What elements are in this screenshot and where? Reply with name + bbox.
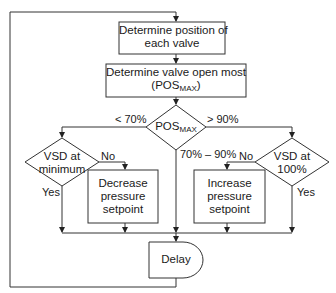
label-line: each valve — [119, 37, 225, 50]
label-text: POS — [155, 120, 179, 132]
edge-label-gt90: > 90% — [207, 113, 239, 125]
edge-label-lt70: < 70% — [115, 113, 147, 125]
label-line: setpoint — [194, 203, 265, 216]
connector-left-no — [99, 162, 125, 169]
label-increase-setpoint: Increase pressure setpoint — [194, 177, 265, 216]
label-line: VSD at — [255, 150, 329, 163]
connector-right-no — [227, 162, 255, 169]
label-line: 100% — [255, 163, 329, 176]
edge-label-left-no: No — [101, 150, 115, 162]
label-determine-position: Determine position of each valve — [119, 24, 225, 50]
label-vsd-100: VSD at 100% — [255, 150, 329, 176]
label-line: pressure — [88, 190, 158, 203]
label-line: Decrease — [88, 177, 158, 190]
label-determine-open-most: Determine valve open most (POSMAX) — [106, 66, 246, 95]
label-line: VSD at — [25, 150, 99, 163]
edge-label-mid: 70% – 90% — [180, 148, 236, 160]
label-line: setpoint — [88, 203, 158, 216]
edge-label-left-yes: Yes — [42, 186, 60, 198]
connector-gt90 — [206, 127, 292, 137]
label-line: (POSMAX) — [106, 79, 246, 95]
edge-label-right-yes: Yes — [297, 186, 315, 198]
label-line: Determine position of — [119, 24, 225, 37]
label-text: (POS — [151, 79, 179, 91]
connector-lt70 — [62, 127, 146, 137]
label-subscript: MAX — [179, 84, 196, 93]
label-line: Determine valve open most — [106, 66, 246, 79]
label-line: pressure — [194, 190, 265, 203]
label-text: ) — [197, 79, 201, 91]
label-subscript: MAX — [179, 125, 196, 134]
edge-label-right-no: No — [239, 150, 253, 162]
label-line: minimum — [25, 163, 99, 176]
label-line: Increase — [194, 177, 265, 190]
label-decrease-setpoint: Decrease pressure setpoint — [88, 177, 158, 216]
label-vsd-minimum: VSD at minimum — [25, 150, 99, 176]
label-delay: Delay — [149, 253, 203, 266]
label-pos-max: POSMAX — [146, 120, 206, 136]
